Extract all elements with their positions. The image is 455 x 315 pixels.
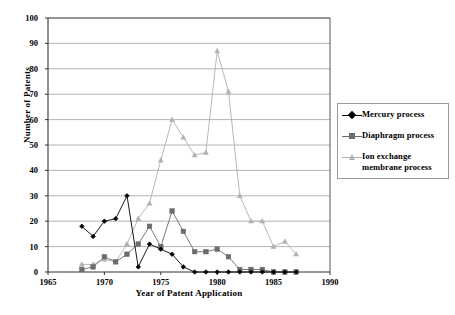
data-point <box>147 242 152 247</box>
data-point <box>113 216 118 221</box>
data-point <box>192 270 197 275</box>
data-point <box>91 265 96 270</box>
data-point <box>226 254 231 259</box>
data-point <box>170 209 175 214</box>
legend-item-diaphragm-process[interactable]: Diaphragm process <box>342 130 444 142</box>
legend-marker-diamond-icon <box>342 110 362 121</box>
data-point <box>136 265 141 270</box>
data-point <box>192 249 197 254</box>
data-point <box>282 239 287 244</box>
chart-legend: Mercury process Diaphragm process Ion ex… <box>337 103 449 179</box>
legend-item-ion-exchange-membrane-process[interactable]: Ion exchangemembrane process <box>342 151 444 172</box>
data-point <box>113 260 118 265</box>
legend-label: Mercury process <box>362 109 424 120</box>
data-point <box>158 158 163 163</box>
data-point <box>124 241 129 246</box>
data-point <box>147 201 152 206</box>
chart-figure: Number of Patents Year of Patent Applica… <box>0 0 455 315</box>
data-point <box>181 229 186 234</box>
legend-label: Diaphragm process <box>362 130 434 141</box>
data-point <box>226 270 231 275</box>
data-point <box>102 254 107 259</box>
data-point <box>147 224 152 229</box>
data-point <box>125 252 130 257</box>
series-line-2 <box>82 51 296 264</box>
data-point <box>204 249 209 254</box>
legend-item-mercury-process[interactable]: Mercury process <box>342 109 444 121</box>
legend-label: Ion exchangemembrane process <box>362 151 432 172</box>
data-point <box>237 193 242 198</box>
data-point <box>215 247 220 252</box>
data-point <box>136 242 141 247</box>
data-point <box>204 270 209 275</box>
data-point <box>80 267 85 272</box>
data-point <box>215 48 220 53</box>
legend-marker-square-icon <box>342 131 362 142</box>
data-point <box>125 194 130 199</box>
data-point <box>203 150 208 155</box>
legend-marker-triangle-icon <box>342 152 362 163</box>
data-point <box>226 89 231 94</box>
data-point <box>215 270 220 275</box>
